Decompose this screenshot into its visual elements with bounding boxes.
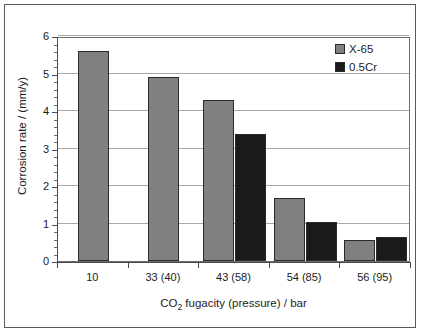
- x-axis-title: CO2 fugacity (pressure) / bar: [57, 297, 410, 309]
- y-axis-tick-label: 2: [9, 180, 49, 192]
- legend-item-x-65: X-65: [335, 41, 407, 57]
- y-axis-minor-tick: [54, 52, 57, 53]
- bar-0-5cr-3: [306, 222, 337, 261]
- y-axis-minor-tick: [54, 82, 57, 83]
- y-axis-minor-tick: [54, 202, 57, 203]
- y-axis-minor-tick: [54, 120, 57, 121]
- y-axis-minor-tick: [54, 165, 57, 166]
- y-axis-minor-tick: [54, 97, 57, 98]
- y-axis-minor-tick: [54, 142, 57, 143]
- bar-0-5cr-2: [235, 134, 266, 262]
- y-axis-minor-tick: [54, 240, 57, 241]
- bar-0-5cr-4: [376, 237, 407, 261]
- y-axis-tick-label: 4: [9, 105, 49, 117]
- figure-frame: 0123456 Corrosion rate / (mm/y) 1033 (40…: [4, 4, 416, 328]
- bar-x-65-2: [203, 100, 234, 261]
- y-axis-major-tick: [52, 75, 57, 76]
- x-axis-tick-label: 56 (95): [339, 271, 410, 283]
- x-axis-tick-label: 43 (58): [198, 271, 269, 283]
- x-axis-separator-tick: [339, 263, 340, 268]
- y-axis-tick-label: 0: [9, 255, 49, 267]
- bar-x-65-1: [148, 77, 179, 261]
- y-axis-major-tick: [52, 37, 57, 38]
- legend-swatch-icon: [335, 62, 345, 72]
- y-axis-minor-tick: [54, 195, 57, 196]
- legend-label: 0.5Cr: [349, 61, 377, 73]
- y-axis-tick-label: 1: [9, 218, 49, 230]
- y-axis-title: Corrosion rate / (mm/y): [16, 41, 28, 231]
- x-axis-separator-tick: [128, 263, 129, 268]
- y-axis-minor-tick: [54, 180, 57, 181]
- y-axis-minor-tick: [54, 157, 57, 158]
- y-axis-tick-label: 3: [9, 143, 49, 155]
- y-axis-minor-tick: [54, 210, 57, 211]
- legend-item-0-5cr: 0.5Cr: [335, 59, 407, 75]
- x-axis-separator-tick: [57, 263, 58, 268]
- x-axis-separator-tick: [269, 263, 270, 268]
- legend-label: X-65: [349, 43, 373, 55]
- x-axis-separator-tick: [198, 263, 199, 268]
- x-axis-tick-label: 54 (85): [269, 271, 340, 283]
- y-axis-minor-tick: [54, 247, 57, 248]
- chart-legend: X-650.5Cr: [335, 41, 407, 77]
- y-axis-minor-tick: [54, 60, 57, 61]
- bar-x-65-4: [344, 240, 375, 261]
- y-axis-minor-tick: [54, 90, 57, 91]
- y-axis-major-tick: [52, 225, 57, 226]
- y-axis-minor-tick: [54, 67, 57, 68]
- y-axis-minor-tick: [54, 127, 57, 128]
- y-axis-major-tick: [52, 187, 57, 188]
- y-axis-minor-tick: [54, 105, 57, 106]
- y-axis-line: [57, 37, 58, 263]
- x-axis-tick-label: 10: [57, 271, 128, 283]
- y-axis-tick-label: 6: [9, 30, 49, 42]
- bar-x-65-3: [274, 198, 305, 261]
- bar-x-65-0: [78, 51, 109, 261]
- x-axis-separator-tick: [410, 263, 411, 268]
- y-axis-major-tick: [52, 150, 57, 151]
- x-axis-line: [57, 262, 411, 263]
- y-axis-minor-tick: [54, 255, 57, 256]
- y-axis-tick-label: 5: [9, 68, 49, 80]
- y-axis-minor-tick: [54, 217, 57, 218]
- y-axis-minor-tick: [54, 45, 57, 46]
- y-axis-minor-tick: [54, 135, 57, 136]
- x-axis-tick-label: 33 (40): [128, 271, 199, 283]
- y-axis-minor-tick: [54, 172, 57, 173]
- legend-swatch-icon: [335, 44, 345, 54]
- y-axis-minor-tick: [54, 232, 57, 233]
- y-axis-major-tick: [52, 112, 57, 113]
- gridline: [58, 35, 409, 36]
